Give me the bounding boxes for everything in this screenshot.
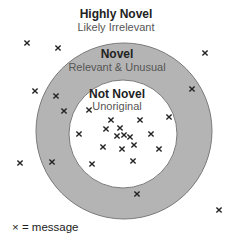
message-marker-icon bbox=[17, 160, 22, 165]
legend: × = message bbox=[12, 221, 78, 233]
novel-subtitle: Relevant & Unusual bbox=[1, 61, 232, 73]
highly-novel-subtitle: Likely Irrelevant bbox=[0, 21, 232, 33]
novelty-diagram: Highly Novel Likely Irrelevant Novel Rel… bbox=[0, 0, 232, 243]
message-marker-icon bbox=[216, 207, 221, 212]
not-novel-subtitle: Unoriginal bbox=[1, 100, 232, 112]
concentric-circles bbox=[0, 0, 232, 243]
highly-novel-title: Highly Novel bbox=[0, 7, 232, 21]
message-marker-icon bbox=[24, 40, 29, 45]
not-novel-title: Not Novel bbox=[1, 87, 232, 101]
novel-title: Novel bbox=[1, 47, 232, 61]
